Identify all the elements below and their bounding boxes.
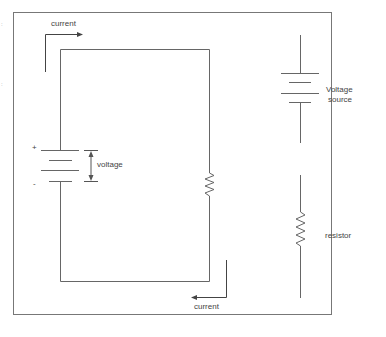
- current-label-top: current: [51, 19, 76, 29]
- circuit-wires: [61, 50, 210, 282]
- outer-frame: [14, 13, 332, 315]
- wire-bottom-left: [61, 181, 210, 282]
- voltage-arrow-icon: [84, 151, 98, 182]
- legend-voltage-source-icon: [281, 35, 319, 143]
- circuit-diagram: current current voltage + - Voltage sour…: [0, 0, 386, 337]
- legend-voltage-label-line2: source: [328, 95, 352, 105]
- current-arrow-bottom-icon: [191, 260, 227, 300]
- legend-resistor-icon: [296, 175, 305, 298]
- circuit-diagram-svg: [0, 0, 386, 337]
- legend-voltage-label-line1: Voltage: [326, 85, 353, 95]
- legend-resistor-label: resistor: [325, 231, 351, 241]
- edge-mark-middle: :: [1, 81, 3, 87]
- current-arrow-top-icon: [46, 32, 84, 72]
- current-label-bottom: current: [194, 302, 219, 312]
- minus-sign: -: [33, 179, 36, 189]
- wire-top-right: [61, 50, 210, 171]
- edge-mark-top: :: [1, 21, 3, 27]
- resistor-icon: [205, 170, 214, 196]
- plus-sign: +: [32, 143, 37, 153]
- battery-icon: [41, 151, 79, 182]
- voltage-label: voltage: [97, 160, 123, 170]
